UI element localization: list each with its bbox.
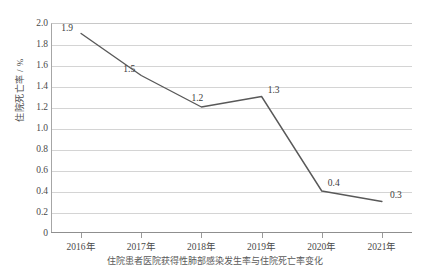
figure-caption: 住院患者医院获得性肺部感染发生率与住院死亡率变化 [0, 256, 429, 265]
gridline [52, 108, 412, 109]
y-axis-tick-label: 1.0 [18, 123, 48, 133]
y-axis-tick-labels: 00.20.40.60.81.01.21.41.61.82.0 [18, 0, 48, 265]
y-axis-tick-label: 0.4 [18, 186, 48, 196]
gridline [52, 66, 412, 67]
y-axis-tick-label: 1.8 [18, 39, 48, 49]
gridline [52, 192, 412, 193]
data-point-label: 0.3 [390, 190, 402, 200]
data-point-label: 1.5 [123, 64, 135, 74]
x-axis-tick-mark [201, 233, 202, 238]
y-axis-tick-label: 0.6 [18, 165, 48, 175]
plot-area [51, 23, 412, 233]
y-axis-tick-label: 1.6 [18, 60, 48, 70]
data-point-label: 0.4 [328, 178, 340, 188]
y-axis-tick-label: 2.0 [18, 18, 48, 28]
data-point-label: 1.9 [61, 23, 73, 33]
y-axis-tick-label: 1.4 [18, 81, 48, 91]
y-axis-tick-label: 0.2 [18, 207, 48, 217]
data-point-label: 1.2 [191, 93, 203, 103]
x-axis-tick-mark [382, 233, 383, 238]
gridline [52, 171, 412, 172]
gridline [52, 150, 412, 151]
x-axis-tick-label: 2021年 [347, 241, 417, 253]
x-axis-tick-mark [141, 233, 142, 238]
gridline [52, 213, 412, 214]
x-axis-tick-mark [322, 233, 323, 238]
x-axis-tick-mark [262, 233, 263, 238]
gridline [52, 87, 412, 88]
x-axis-line [51, 232, 412, 233]
y-axis-tick-label: 0 [18, 228, 48, 238]
chart-figure: 住院死亡率 / % 00.20.40.60.81.01.21.41.61.82.… [0, 0, 429, 265]
data-point-label: 1.3 [268, 85, 280, 95]
y-axis-tick-label: 1.2 [18, 102, 48, 112]
gridline [52, 45, 412, 46]
gridline [52, 129, 412, 130]
y-axis-tick-label: 0.8 [18, 144, 48, 154]
x-axis-tick-mark [81, 233, 82, 238]
